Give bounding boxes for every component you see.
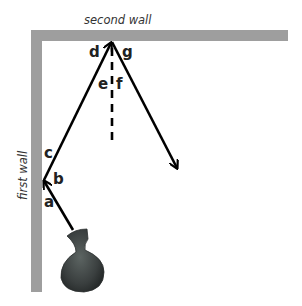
angle-label-g: g	[122, 43, 133, 61]
second-wall	[31, 30, 288, 41]
angle-label-f: f	[116, 75, 123, 93]
angle-label-c: c	[44, 144, 53, 162]
reflection-diagram: second wall first wall a b c d e f g	[0, 0, 302, 306]
angle-label-d: d	[89, 43, 100, 61]
angle-label-e: e	[98, 75, 108, 93]
first-wall-label: first wall	[16, 150, 30, 200]
angle-label-b: b	[53, 170, 64, 188]
ray-reflected-1	[44, 43, 111, 180]
vase-icon	[61, 229, 104, 292]
second-wall-label: second wall	[84, 13, 152, 27]
angle-label-a: a	[44, 193, 54, 211]
first-wall	[31, 30, 42, 292]
